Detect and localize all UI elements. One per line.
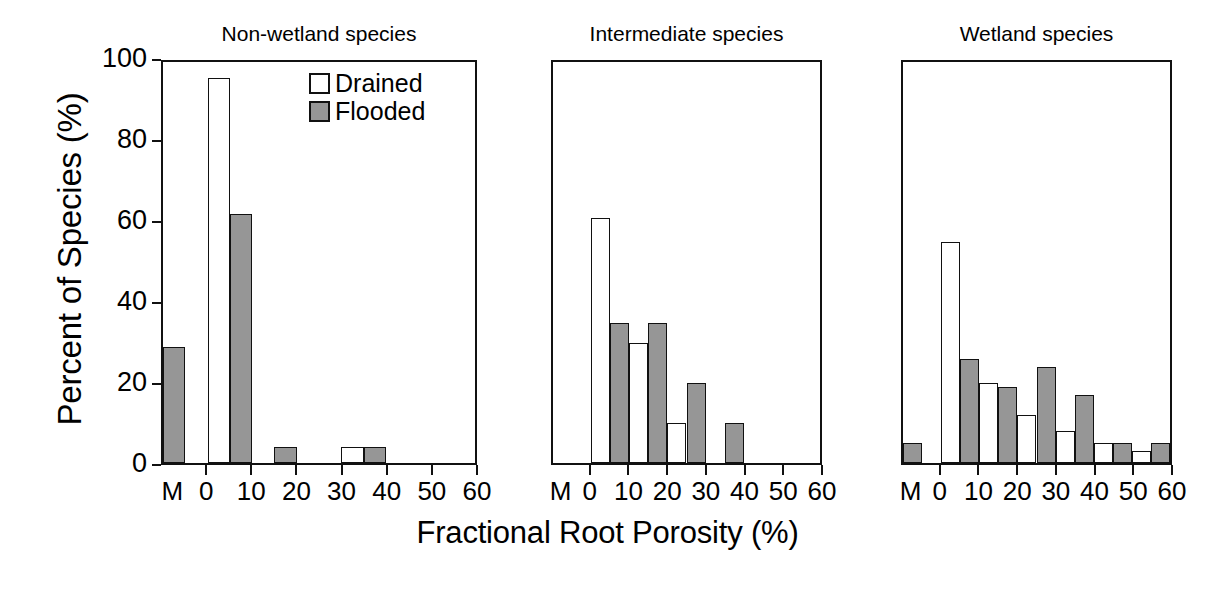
panel-title: Non-wetland species xyxy=(161,22,477,46)
x-tick-mark xyxy=(205,465,207,475)
panel-title: Intermediate species xyxy=(551,22,822,46)
bar-flooded-35-40 xyxy=(364,447,386,463)
legend-label-flooded: Flooded xyxy=(335,99,425,124)
y-tick-label: 40 xyxy=(117,286,147,317)
x-tick-mark xyxy=(627,465,629,475)
bar-drained-10-15 xyxy=(629,343,648,463)
y-tick-mark xyxy=(152,221,161,223)
bar-drained-30-35 xyxy=(341,447,363,463)
x-tick-mark xyxy=(431,465,433,475)
x-tick-mark xyxy=(1171,465,1173,475)
bar-flooded-15-20 xyxy=(274,447,296,463)
legend: Drained Flooded xyxy=(309,70,425,126)
bar-flooded-35-40 xyxy=(1075,395,1094,463)
bar-flooded-15-20 xyxy=(998,387,1017,463)
y-tick-label: 60 xyxy=(117,205,147,236)
legend-entry-drained: Drained xyxy=(309,70,425,96)
x-tick-label: 60 xyxy=(451,476,503,507)
y-tick-mark xyxy=(152,140,161,142)
legend-swatch-flooded-icon xyxy=(309,101,330,122)
bar-flooded-5-10 xyxy=(230,214,252,463)
bar-drained-20-25 xyxy=(667,423,686,463)
x-tick-mark xyxy=(1094,465,1096,475)
x-tick-label-m: M xyxy=(535,476,587,507)
panel-title: Wetland species xyxy=(901,22,1172,46)
y-tick-label: 100 xyxy=(102,43,147,74)
legend-label-drained: Drained xyxy=(335,71,423,96)
bar-drained-0-5 xyxy=(941,242,960,463)
bar-flooded-5-10 xyxy=(610,323,629,463)
x-tick-mark xyxy=(250,465,252,475)
bar-flooded-25-30 xyxy=(687,383,706,463)
bar-flooded-5-10 xyxy=(960,359,979,463)
bar-flooded-35-40 xyxy=(725,423,744,463)
y-tick-label: 0 xyxy=(132,448,147,479)
bar-flooded-25-30 xyxy=(1037,367,1056,463)
bar-drained-30-35 xyxy=(1056,431,1075,463)
bars-layer xyxy=(903,62,1170,463)
x-tick-label: 60 xyxy=(796,476,848,507)
x-tick-mark xyxy=(341,465,343,475)
x-tick-mark xyxy=(744,465,746,475)
x-tick-mark xyxy=(295,465,297,475)
bar-flooded-15-20 xyxy=(648,323,667,463)
x-tick-mark xyxy=(1055,465,1057,475)
y-tick-mark xyxy=(152,302,161,304)
x-tick-mark xyxy=(589,465,591,475)
x-tick-mark xyxy=(977,465,979,475)
bar-drained-40-45 xyxy=(1094,443,1113,463)
y-tick-label: 20 xyxy=(117,367,147,398)
x-tick-label-m: M xyxy=(885,476,937,507)
x-tick-label-m: M xyxy=(146,476,198,507)
bar-drained-50-55 xyxy=(1132,451,1151,463)
x-tick-mark xyxy=(939,465,941,475)
panel-wetland: Wetland species 0102030405060M xyxy=(901,60,1172,465)
bar-drained-20-25 xyxy=(1017,415,1036,463)
panel-non-wetland: Non-wetland species Drained Flooded 0102… xyxy=(161,60,477,465)
y-tick-mark xyxy=(152,383,161,385)
bar-drained-0-5 xyxy=(208,78,230,463)
panel-intermediate: Intermediate species 0102030405060M xyxy=(551,60,822,465)
bar-flooded-45-50 xyxy=(1113,443,1132,463)
bar-drained-10-15 xyxy=(979,383,998,463)
x-tick-mark xyxy=(476,465,478,475)
x-tick-mark xyxy=(705,465,707,475)
x-tick-label: 60 xyxy=(1146,476,1198,507)
legend-entry-flooded: Flooded xyxy=(309,98,425,124)
x-tick-mark xyxy=(782,465,784,475)
bar-flooded-M xyxy=(163,347,185,463)
x-tick-mark xyxy=(386,465,388,475)
figure-root: Percent of Species (%) Fractional Root P… xyxy=(0,0,1215,593)
y-tick-label: 80 xyxy=(117,124,147,155)
bar-drained-0-5 xyxy=(591,218,610,463)
y-tick-mark xyxy=(152,59,161,61)
x-tick-mark xyxy=(821,465,823,475)
x-tick-mark xyxy=(1132,465,1134,475)
bar-flooded-55-60 xyxy=(1151,443,1170,463)
y-axis-title: Percent of Species (%) xyxy=(51,39,89,479)
legend-swatch-drained-icon xyxy=(309,73,330,94)
x-axis-title: Fractional Root Porosity (%) xyxy=(0,515,1215,551)
bar-flooded-M xyxy=(903,443,922,463)
bars-layer xyxy=(553,62,820,463)
x-tick-mark xyxy=(1016,465,1018,475)
x-tick-mark xyxy=(666,465,668,475)
y-tick-mark xyxy=(152,464,161,466)
